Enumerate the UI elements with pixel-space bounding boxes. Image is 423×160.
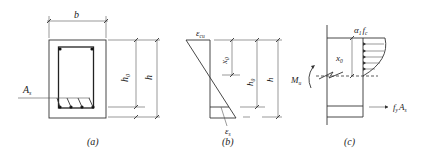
moment-label: Mu	[290, 75, 302, 86]
stirrup	[59, 47, 94, 108]
tension-bars	[57, 98, 95, 109]
caption-a: (a)	[87, 136, 99, 147]
effective-depth-label: h0	[119, 74, 131, 82]
width-label: b	[74, 9, 79, 20]
caption-b: (b)	[222, 136, 234, 147]
strain-height-dimension: h	[265, 38, 280, 119]
panel-a-cross-section: b As h0	[18, 9, 160, 119]
beam-outline	[49, 40, 106, 118]
height-label: h	[143, 75, 154, 80]
strain-effective-depth-dimension: h0	[245, 38, 259, 109]
width-dimension: b	[47, 9, 108, 38]
stress-arrows	[366, 44, 384, 69]
strain-height-label: h	[265, 77, 275, 82]
strain-effective-depth-label: h0	[245, 79, 256, 87]
neutral-axis-depth-dimension: x0	[219, 38, 234, 77]
compression-depth-label: x0	[335, 53, 343, 64]
top-strain-label: εcu	[196, 28, 205, 39]
neutral-axis-depth-label: x0	[219, 57, 230, 65]
top-bar-right	[90, 47, 93, 50]
caption-c: (c)	[344, 136, 355, 147]
top-bar-left	[58, 47, 61, 50]
steel-force-label: fyAs	[393, 102, 407, 113]
steel-area-label: As	[22, 84, 32, 96]
strain-line	[186, 40, 236, 118]
height-dimension: h	[143, 38, 159, 119]
concrete-stress-label: α1fc	[354, 25, 368, 36]
panel-b-strain-diagram: εcu εs x0 h0 h	[186, 28, 282, 137]
compression-depth-dimension: x0	[335, 36, 354, 78]
beam-section-diagram: b As h0	[0, 0, 423, 160]
panel-c-stress-diagram: x0 α1fc Mu fyAs	[290, 25, 407, 125]
moment-arrow	[309, 67, 313, 88]
